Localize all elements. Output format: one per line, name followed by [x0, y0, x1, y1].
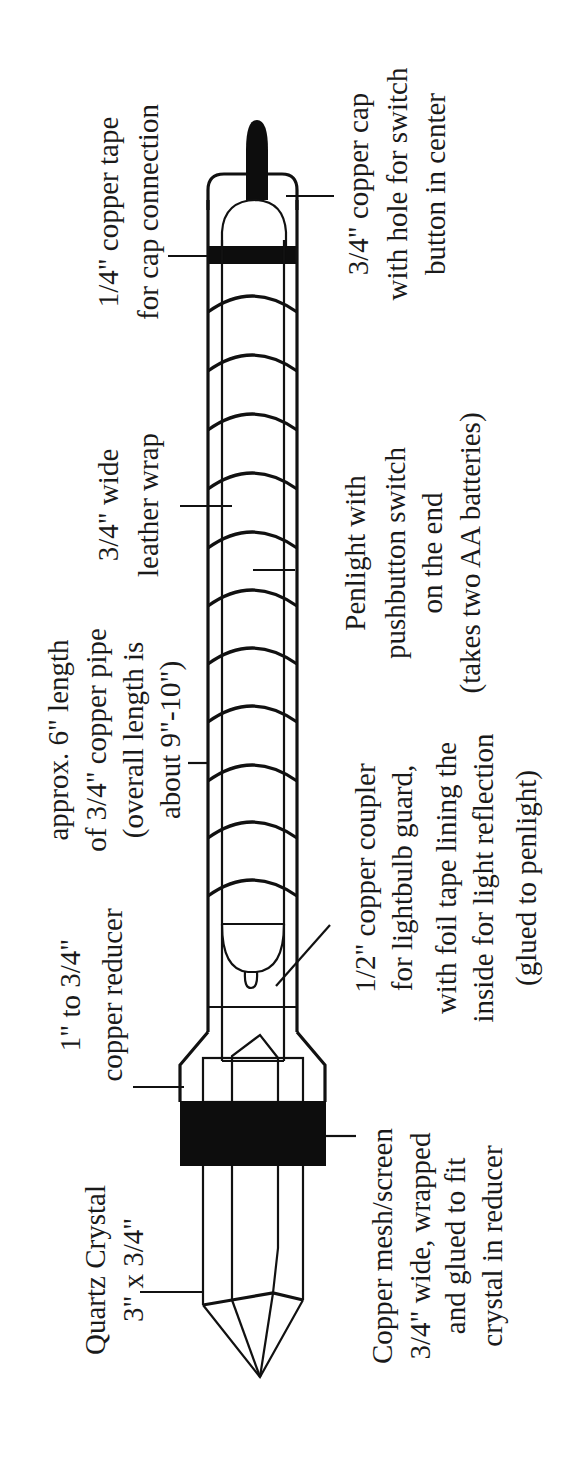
label-line: 3/4" wide, wrapped — [404, 1132, 436, 1359]
label-line: for lightbulb guard, — [386, 765, 418, 991]
penlight-end-dome — [222, 200, 286, 247]
label-line: (overall length is — [117, 642, 150, 839]
label-line: with hole for switch — [381, 67, 413, 300]
wand-diagram: 1/4" copper tape for cap connection 3/4"… — [0, 0, 582, 1458]
label-line: copper reducer — [96, 908, 128, 1081]
label-crystal: Quartz Crystal 3" x 3/4" — [79, 1185, 149, 1355]
label-line: inside for light reflection — [467, 733, 499, 1023]
label-line: of 3/4" copper pipe — [80, 628, 112, 852]
lightbulb — [222, 924, 284, 972]
label-line: and glued to fit — [439, 1158, 471, 1334]
quartz-crystal — [203, 1166, 303, 1377]
label-line: button in center — [419, 93, 451, 275]
label-line: 1/2" copper coupler — [349, 763, 381, 993]
label-line: 3/4" copper cap — [342, 93, 374, 276]
label-line: 1" to 3/4" — [54, 939, 86, 1051]
label-coupler: 1/2" copper coupler for lightbulb guard,… — [349, 733, 543, 1023]
crystal-top-facet — [232, 1035, 278, 1102]
label-line: 3" x 3/4" — [117, 1218, 149, 1322]
label-line: (glued to penlight) — [510, 770, 543, 986]
crystal-top — [203, 1058, 303, 1102]
label-copper-tape: 1/4" copper tape for cap connection — [92, 104, 164, 320]
label-line: Copper mesh/screen — [366, 1128, 398, 1364]
label-line: pushbutton switch — [379, 447, 411, 659]
label-copper-pipe: approx. 6" length of 3/4" copper pipe (o… — [42, 628, 187, 852]
label-penlight: Penlight with pushbutton switch on the e… — [339, 412, 487, 693]
label-mesh: Copper mesh/screen 3/4" wide, wrapped an… — [366, 1128, 508, 1364]
copper-mesh-band — [180, 1101, 326, 1166]
label-reducer: 1" to 3/4" copper reducer — [54, 908, 128, 1081]
label-copper-cap: 3/4" copper cap with hole for switch but… — [342, 67, 451, 300]
label-leather-wrap: 3/4" wide leather wrap — [92, 433, 164, 577]
label-line: on the end — [416, 492, 448, 613]
label-line: about 9"-10") — [154, 661, 187, 819]
label-line: Quartz Crystal — [79, 1185, 111, 1355]
pushbutton-switch — [246, 120, 268, 200]
label-line: with foil tape lining the — [430, 742, 462, 1014]
label-line: crystal in reducer — [476, 1145, 508, 1347]
label-line: (takes two AA batteries) — [454, 412, 487, 693]
label-line: 3/4" wide — [92, 449, 124, 562]
label-line: approx. 6" length — [42, 639, 74, 841]
label-line: 1/4" copper tape — [92, 117, 124, 308]
bulb-tip — [245, 972, 257, 988]
label-line: for cap connection — [132, 104, 164, 320]
label-line: leather wrap — [132, 433, 164, 577]
label-line: Penlight with — [339, 475, 371, 631]
